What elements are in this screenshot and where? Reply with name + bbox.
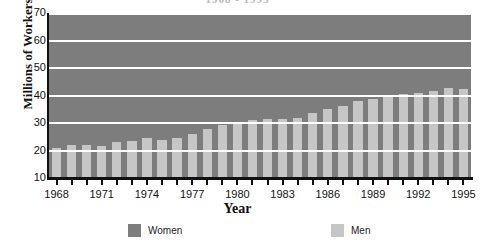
x-tick (161, 180, 163, 185)
legend-swatch-men (331, 224, 344, 237)
bar (142, 72, 151, 178)
x-tick (191, 180, 193, 185)
bar (52, 83, 61, 178)
x-tick (176, 180, 178, 185)
x-axis-title: Year (0, 201, 475, 217)
bar-segment-women (293, 59, 302, 117)
bar-segment-men (248, 120, 257, 178)
x-tick (297, 180, 299, 185)
x-tick (71, 180, 73, 185)
x-tick (447, 180, 449, 185)
y-axis-line (47, 13, 49, 180)
bar-segment-men (444, 88, 453, 178)
x-tick (86, 180, 88, 185)
bar-segment-women (263, 66, 272, 119)
bar-segment-women (127, 74, 136, 141)
bar-segment-women (67, 82, 76, 145)
legend-swatch-women (128, 224, 141, 237)
bar-segment-women (97, 81, 106, 145)
chart-legend: WomenMen (0, 224, 475, 244)
bar-segment-women (414, 48, 423, 93)
bar-segment-men (293, 118, 302, 179)
x-tick (387, 180, 389, 185)
bar-segment-men (429, 91, 438, 178)
bar (338, 50, 347, 178)
x-tick (267, 180, 269, 185)
legend-label: Women (148, 225, 182, 236)
bar (293, 59, 302, 178)
bar-segment-men (308, 113, 317, 178)
x-tick (146, 180, 148, 185)
bar-segment-women (203, 65, 212, 129)
bar-segment-women (444, 43, 453, 88)
x-tick-label: 1980 (217, 188, 257, 200)
x-tick (56, 180, 58, 185)
bar (97, 81, 106, 178)
bar (203, 65, 212, 178)
x-tick-label: 1986 (308, 188, 348, 200)
x-tick-label: 1983 (263, 188, 303, 200)
y-tick-label: 50 (22, 62, 46, 73)
bar-segment-men (459, 89, 468, 178)
bar (368, 45, 377, 178)
chart-title-strip: 1968 - 1995 (0, 0, 475, 9)
x-tick-label: 1974 (127, 188, 167, 200)
bar-segment-men (203, 129, 212, 178)
bar (172, 73, 181, 178)
x-tick (206, 180, 208, 185)
bar-segment-women (52, 83, 61, 148)
x-tick (101, 180, 103, 185)
bar-segment-men (233, 122, 242, 178)
bar (444, 43, 453, 178)
bar (323, 54, 332, 178)
bar (429, 44, 438, 178)
bar (308, 56, 317, 178)
bar-segment-women (323, 54, 332, 109)
bar-segment-women (188, 68, 197, 134)
x-tick (327, 180, 329, 185)
x-tick-label: 1968 (37, 188, 77, 200)
bar-segment-women (399, 50, 408, 95)
bar (353, 47, 362, 178)
bar (82, 82, 91, 178)
bar (278, 66, 287, 178)
x-axis-ticks (49, 180, 473, 186)
bar-segment-men (383, 96, 392, 178)
bar-segment-men (323, 109, 332, 178)
x-tick (342, 180, 344, 185)
x-tick-label: 1992 (398, 188, 438, 200)
bar-segment-men (157, 140, 166, 179)
bar-segment-women (353, 47, 362, 101)
bar-segment-women (429, 44, 438, 91)
bar-segment-men (67, 145, 76, 178)
bar-segment-men (112, 142, 121, 178)
bar-segment-women (157, 76, 166, 140)
bar-segment-men (263, 119, 272, 178)
y-tick-label: 70 (22, 7, 46, 18)
bar-segment-men (127, 141, 136, 178)
bar-segment-men (172, 138, 181, 178)
bar-segment-men (278, 119, 287, 178)
y-tick-label: 10 (22, 172, 46, 183)
bar (263, 66, 272, 178)
x-tick (432, 180, 434, 185)
bar-segment-women (248, 63, 257, 121)
bar (459, 41, 468, 179)
bar-segment-women (338, 50, 347, 106)
bar (399, 50, 408, 178)
bar-segment-women (233, 63, 242, 123)
x-tick (131, 180, 133, 185)
bar-segment-women (218, 61, 227, 125)
bar (67, 82, 76, 178)
bar-segment-women (142, 72, 151, 138)
y-tick-label: 30 (22, 117, 46, 128)
x-tick-label: 1989 (353, 188, 393, 200)
chart-title: 1968 - 1995 (0, 0, 475, 5)
x-tick (282, 180, 284, 185)
bar-segment-men (353, 101, 362, 178)
bar-segment-men (368, 99, 377, 178)
bar-segment-women (383, 49, 392, 96)
bar-segment-men (218, 125, 227, 178)
y-tick-label: 40 (22, 90, 46, 101)
bar (414, 48, 423, 178)
